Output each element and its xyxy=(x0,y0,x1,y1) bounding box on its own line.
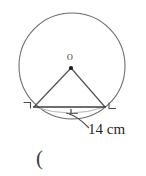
geometry-figure: O 14 cm ( xyxy=(0,0,146,176)
canvas-background xyxy=(0,0,146,176)
trailing-paren-text: ( xyxy=(36,146,43,170)
measurement-label: 14 cm xyxy=(88,121,125,137)
figure-canvas: O 14 cm ( xyxy=(0,0,146,176)
center-point-dot xyxy=(69,66,73,70)
center-point-label: O xyxy=(67,53,73,62)
